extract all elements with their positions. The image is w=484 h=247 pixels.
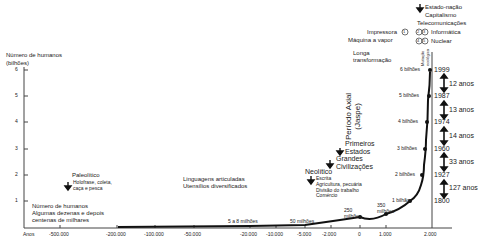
interval-label: 14 anos [449,132,474,139]
year-label: 1960 [434,145,450,152]
year-label: 1999 [434,66,450,73]
year-label: 1927 [434,171,450,178]
year-label: 1987 [434,92,450,99]
x-tick: 1.000 [379,232,392,237]
x-tick: -200.000 [106,232,126,237]
pop-label: 5 bilhões [399,93,419,98]
pop-label: 5 a 8 milhões [228,219,258,224]
pop-label: 250 milhões [344,208,361,220]
circle-3: 3 [423,30,425,34]
pop-label: 350 milhões [377,203,394,215]
estado-nacao-label: Estado-nação [425,4,462,10]
y-tick-2: 2 [15,172,18,177]
y-tick-4: 4 [15,119,18,124]
interval-label: 13 anos [449,106,474,113]
interval-label: 33 anos [449,158,474,165]
capitalismo-label: Capitalismo [425,12,456,18]
x-tick: -10.000 [266,232,283,237]
x-tick: -20.000 [240,232,257,237]
neolitico-desc: Escrita Agricultura, pecuária Divisão do… [316,176,362,199]
x-tick: -2.000 [322,232,336,237]
nuclear-label: Nuclear [431,38,452,44]
paleolitico-desc: Holofrase, coleta, caça e pesca [73,180,112,192]
year-label: 1800 [434,197,450,204]
telecom-label: Telecomunicações [417,20,466,26]
y-axis-title: Número de humanos [6,52,62,59]
y-tick-6: 6 [15,67,18,72]
x-axis-title: Anos [23,232,34,237]
pop-label: 50 milhões [290,219,314,224]
circle-4: 4 [417,39,419,43]
interval-label: 12 anos [449,80,474,87]
circle-5: 5 [423,39,425,43]
pop-label: 6 bilhões [400,67,420,72]
early-humans-note: Número de humanos Algumas dezenas e depo… [32,203,104,224]
interval-label: 127 anos [449,184,478,191]
x-tick: 0 [358,232,361,237]
paleolitico-label: Paleolítico [72,172,100,178]
pop-label: 1 bilhão [392,198,410,203]
pop-label: 2 bilhões [395,172,415,177]
circle-2: 2 [417,30,419,34]
x-tick: -100.000 [144,232,164,237]
longa-transformacao-label: Longa transformação [353,50,391,64]
x-tick: -5.000 [297,232,311,237]
pop-label: 4 bilhões [398,119,418,124]
impressora-label: Impressora [367,29,397,35]
neolitico-label: Neolítico [305,168,332,175]
x-tick: 2.000 [424,232,437,237]
x-tick: -500.000 [49,232,69,237]
y-tick-1: 1 [15,198,18,203]
grandes-civilizacoes-label: Grandes Civilizações [336,155,373,171]
x-tick: -50.000 [184,232,201,237]
year-label: 1974 [434,118,450,125]
primeiros-estados-label: Primeiros Estados [345,140,375,156]
maquina-vapor-label: Máquina a vapor [348,37,393,43]
y-tick-3: 3 [15,146,18,151]
linguagens-note: Linguagens articuladas Utensílios divers… [183,176,247,190]
pop-label: 3 bilhões [397,146,417,151]
mutacao-ecologica-label: Mutação ecológica [421,49,430,66]
y-tick-5: 5 [15,93,18,98]
informatica-label: Informática [431,29,461,35]
periodo-axial-label: Período Axial (Jaspe) [344,93,362,140]
circle-1: 1 [403,30,405,34]
